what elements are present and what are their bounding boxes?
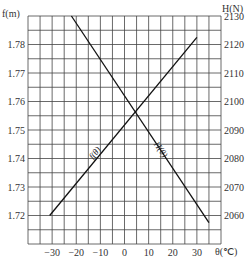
x-tick-label: 20 [168,247,178,258]
left-y-axis-ticks: 1.721.731.741.751.761.771.78 [8,39,26,221]
left-y-axis-title: f(m) [2,8,20,20]
right-y-axis-ticks: 20602070208020902100211021202130 [224,11,244,222]
x-tick-label: −20 [68,247,84,258]
x-tick-label: 30 [192,247,202,258]
left-y-tick-label: 1.76 [8,96,26,107]
left-y-tick-label: 1.75 [8,125,26,136]
left-y-tick-label: 1.78 [8,39,26,50]
x-axis-title: θ(℃) [215,246,237,258]
chart: −30−20−100102030 1.721.731.741.751.761.7… [0,0,248,266]
left-y-tick-label: 1.74 [8,153,26,164]
right-y-axis-title: H(N) [222,3,243,15]
h-curve-label: H(θ) [151,139,169,159]
f-theta-line [50,37,197,215]
left-y-tick-label: 1.77 [8,68,26,79]
x-tick-label: 0 [122,247,127,258]
left-y-tick-label: 1.73 [8,182,26,193]
x-tick-label: 10 [144,247,154,258]
right-y-tick-label: 2120 [224,39,244,50]
x-axis-ticks: −30−20−100102030 [44,247,202,258]
grid [28,16,221,244]
right-y-tick-label: 2100 [224,96,244,107]
right-y-tick-label: 2080 [224,153,244,164]
right-y-tick-label: 2060 [224,210,244,221]
right-y-tick-label: 2070 [224,182,244,193]
right-y-tick-label: 2110 [224,68,244,79]
right-y-tick-label: 2090 [224,125,244,136]
left-y-tick-label: 1.72 [8,210,26,221]
x-tick-label: −10 [93,247,109,258]
x-tick-label: −30 [44,247,60,258]
